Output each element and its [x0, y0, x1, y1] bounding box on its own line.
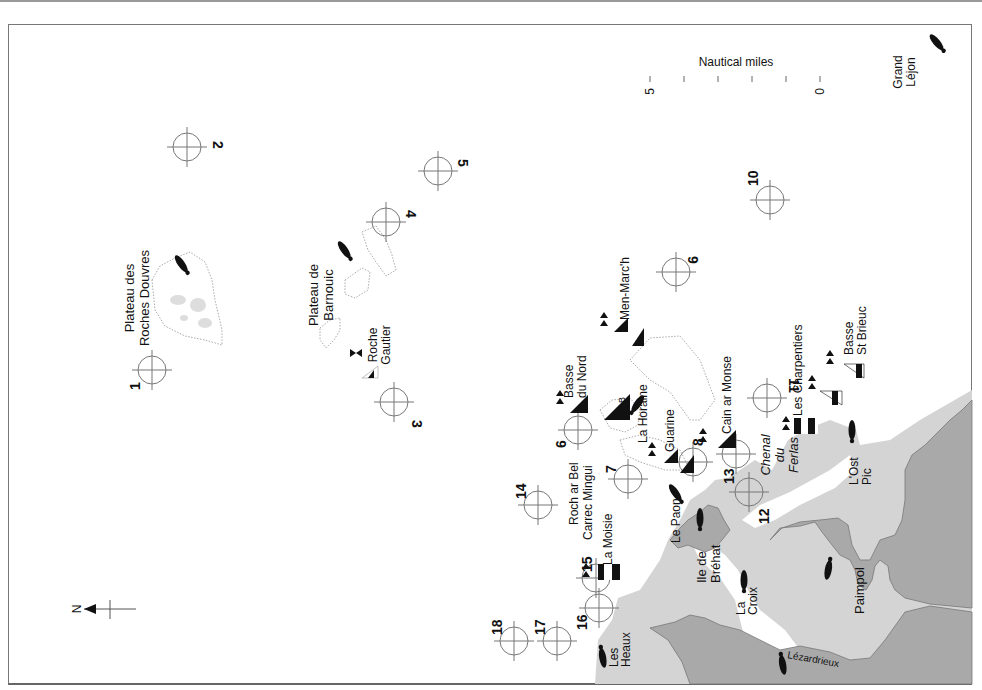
- dive-site-5[interactable]: 5: [418, 151, 471, 191]
- dive-site-2[interactable]: 2: [167, 127, 226, 167]
- dive-site-18[interactable]: 18: [489, 619, 534, 661]
- label-basse-st-brieuc-2: St Brieuc: [855, 306, 869, 355]
- label-basse-du-nord-2: du Nord: [575, 355, 589, 398]
- label-men-march: Men-Marc'h: [618, 257, 632, 320]
- label-la-moisie: La Moisie: [601, 513, 615, 565]
- beacon-icon: [600, 312, 608, 326]
- dive-site-2-number: 2: [210, 141, 226, 149]
- dive-site-17[interactable]: 17: [532, 619, 577, 661]
- dive-site-12-number: 12: [756, 508, 772, 524]
- label-carrec-mingui: Carrec Mingui: [581, 465, 595, 540]
- beacon-icon: [844, 364, 864, 378]
- label-ile-de-brehat-1: Ile de: [694, 551, 709, 583]
- label-lost-pic-2: Pic: [860, 468, 874, 485]
- label-chenal-1: Chenal: [758, 433, 773, 475]
- label-grand-lejon-2: Léjon: [904, 57, 918, 86]
- dive-site-9-number: 9: [685, 256, 701, 264]
- dive-site-13-number: 13: [721, 468, 737, 484]
- dive-site-5-number: 5: [455, 159, 471, 167]
- beacon-icon: [632, 328, 644, 346]
- dive-site-9[interactable]: 9: [656, 252, 701, 292]
- dive-site-10[interactable]: 10: [745, 170, 790, 220]
- label-lost-pic-1: L'Ost: [847, 457, 861, 485]
- dive-site-15-number: 15: [579, 556, 595, 572]
- nautical-chart[interactable]: 1 2 3 4 5 6 7 8: [0, 0, 982, 690]
- dive-site-4[interactable]: 4: [366, 202, 419, 242]
- scale-bar-title: Nautical miles: [699, 55, 774, 69]
- beacon-icon: [362, 366, 378, 378]
- lighthouse-icon: [927, 32, 947, 54]
- label-guarine: Guarine: [663, 409, 677, 452]
- label-roches-douvres-2: Roches Douvres: [137, 249, 152, 346]
- label-grand-lejon-1: Grand: [891, 55, 905, 88]
- label-ile-de-brehat-2: Bréhat: [708, 544, 723, 583]
- dive-site-7-number: 7: [603, 465, 619, 473]
- label-chenal-2: du: [772, 448, 787, 462]
- label-les-heaux-2: Heaux: [619, 632, 633, 667]
- label-roches-douvres-1: Plateau des: [122, 263, 137, 332]
- label-barnouic-1: Plateau de: [306, 264, 321, 326]
- north-arrow: N: [70, 600, 136, 619]
- dive-site-7[interactable]: 7: [603, 459, 648, 499]
- label-la-horaine: La Horaine: [636, 384, 650, 443]
- beacon-icon: [794, 418, 818, 434]
- label-paimpol: Paimpol: [852, 567, 867, 614]
- roches-douvres-reef: [152, 252, 222, 345]
- label-roche-gautier-2: Gautier: [379, 325, 393, 364]
- beacon-icon: [648, 442, 656, 456]
- beacon-icon: [808, 375, 816, 389]
- dive-site-6[interactable]: 6: [553, 410, 598, 450]
- label-basse-st-brieuc-1: Basse: [842, 321, 856, 355]
- dive-site-3-number: 3: [409, 420, 425, 428]
- dive-site-17-number: 17: [532, 619, 548, 635]
- dive-site-1[interactable]: 1: [127, 350, 172, 390]
- lighthouse-icon: [336, 240, 355, 263]
- label-cain-ar-monse: Cain ar Monse: [720, 356, 734, 434]
- scale-bar: Nautical miles 5 0: [643, 55, 827, 95]
- label-basse-du-nord-1: Basse: [562, 364, 576, 398]
- beacon-icon: [598, 564, 620, 580]
- north-arrow-icon: [84, 604, 96, 614]
- dive-site-14-number: 14: [513, 483, 529, 499]
- dive-site-3[interactable]: 3: [374, 382, 425, 428]
- dive-site-16-number: 16: [574, 614, 590, 630]
- beacon-icon: [350, 349, 362, 357]
- label-roch-ar-bel: Roch ar Bel: [567, 462, 581, 525]
- dive-site-4-number: 4: [403, 210, 419, 218]
- beacon-icon: [826, 350, 834, 364]
- scale-tick-5: 5: [643, 88, 657, 95]
- label-les-charpentiers: Les Charpentiers: [791, 325, 805, 416]
- label-le-paon: Le Paon: [669, 498, 683, 543]
- label-horaine-b: B: [617, 397, 627, 403]
- beacon-icon: [820, 391, 842, 405]
- label-roche-gautier-1: Roche: [366, 327, 380, 362]
- lighthouse-icon: [173, 254, 192, 277]
- dive-site-1-number: 1: [127, 382, 143, 390]
- dive-site-10-number: 10: [745, 170, 761, 186]
- dive-site-14[interactable]: 14: [513, 483, 558, 525]
- north-label: N: [70, 605, 84, 614]
- dive-site-6-number: 6: [553, 440, 569, 448]
- label-chenal-3: Ferlas: [786, 436, 801, 473]
- scale-tick-0: 0: [813, 88, 827, 95]
- label-la-croix-2: Croix: [746, 587, 760, 615]
- label-barnouic-2: Barnouic: [321, 269, 336, 321]
- beacon-icon: [782, 416, 790, 430]
- dive-site-18-number: 18: [489, 619, 505, 635]
